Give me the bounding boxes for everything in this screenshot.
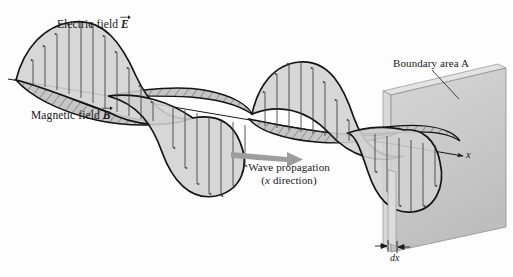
wave-propagation-label: Wave propagation (x direction) <box>228 161 350 186</box>
boundary-area-label: Boundary area A <box>393 57 469 70</box>
magnetic-field-symbol-text: B <box>103 109 111 121</box>
electric-field-symbol: E <box>121 18 129 31</box>
electric-field-symbol-text: E <box>121 18 129 30</box>
magnetic-field-label: Magnetic field B <box>31 109 111 122</box>
em-wave-figure: Electric field E Magnetic field B Bounda… <box>0 0 513 277</box>
em-wave-diagram <box>0 0 513 277</box>
dx-slab-body <box>388 170 396 246</box>
x-axis-label: x <box>466 149 471 161</box>
direction-suffix: direction) <box>270 174 317 186</box>
dx-slab <box>388 170 396 246</box>
wave-propagation-text: Wave propagation <box>248 161 330 173</box>
magnetic-field-label-text: Magnetic field <box>31 109 100 121</box>
magnetic-field-symbol: B <box>103 109 111 122</box>
dx-label: dx <box>390 252 400 264</box>
electric-field-label: Electric field E <box>57 18 129 31</box>
electric-field-label-text: Electric field <box>57 18 118 30</box>
wave-propagation-direction: (x direction) <box>228 174 350 187</box>
